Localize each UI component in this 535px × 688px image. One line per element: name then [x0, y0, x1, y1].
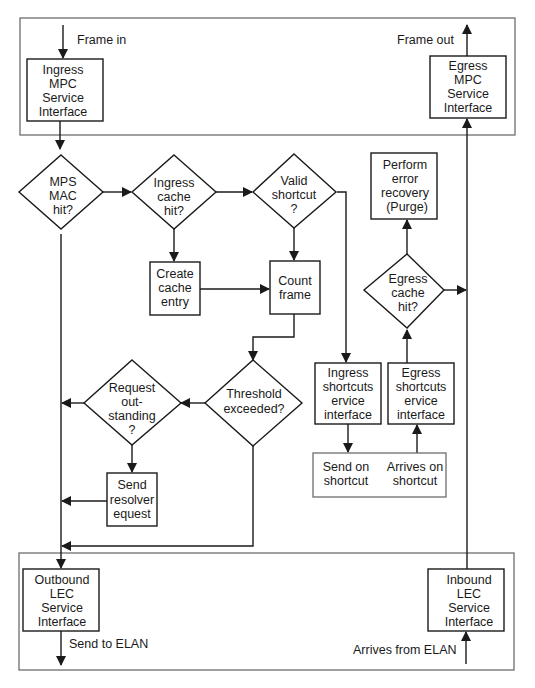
arrives-from-elan-label: Arrives from ELAN: [353, 643, 457, 657]
send-resolver-request-box: Send resolver equest: [107, 473, 157, 526]
ingress-shortcut-service-interface-box: Ingress shortcuts ervice interface: [315, 363, 381, 424]
create-cache-line-3: entry: [161, 295, 190, 309]
send-on-shortcut-line-1: Send on: [323, 460, 370, 474]
egress-mpc-line-1: Egress: [449, 59, 488, 73]
request-outstanding-line-2: out-: [121, 395, 143, 409]
ingress-mpc-line-1: Ingress: [43, 63, 84, 77]
valid-shortcut-line-2: shortcut: [272, 188, 317, 202]
valid-shortcut-line-1: Valid: [281, 174, 308, 188]
egress-mpc-service-interface-box: Egress MPC Service Interface: [430, 56, 506, 118]
ingress-mpc-line-3: Service: [42, 91, 84, 105]
mps-mac-line-1: MPS: [49, 175, 76, 189]
egress-shortcut-line-2: shortcuts: [396, 380, 447, 394]
ingress-shortcut-line-2: shortcuts: [323, 380, 374, 394]
recovery-line-2: error: [392, 172, 418, 186]
send-resolver-line-3: equest: [113, 507, 151, 521]
ingress-shortcut-line-4: interface: [324, 408, 372, 422]
send-on-shortcut-line-2: shortcut: [324, 474, 369, 488]
create-cache-line-2: cache: [158, 281, 191, 295]
frame-out-label: Frame out: [397, 33, 454, 47]
send-to-elan-label: Send to ELAN: [69, 637, 148, 651]
inbound-lec-line-1: Inbound: [446, 573, 491, 587]
request-outstanding-decision: Request out- standing ?: [84, 360, 181, 445]
ingress-cache-line-1: Ingress: [154, 176, 195, 190]
perform-error-recovery-box: Perform error recovery (Purge): [371, 153, 437, 219]
egress-shortcut-line-4: interface: [397, 408, 445, 422]
ingress-mpc-line-2: MPC: [49, 77, 77, 91]
request-outstanding-line-1: Request: [109, 381, 156, 395]
recovery-line-1: Perform: [383, 158, 427, 172]
outbound-lec-line-2: LEC: [50, 587, 74, 601]
inbound-lec-line-3: Service: [448, 601, 490, 615]
inbound-lec-service-interface-box: Inbound LEC Service Interface: [428, 569, 504, 631]
recovery-line-4: (Purge): [386, 200, 428, 214]
egress-shortcut-service-interface-box: Egress shortcuts ervice interface: [388, 363, 454, 424]
flowchart-canvas: Ingress MPC Service Interface Egress MPC…: [0, 0, 535, 688]
arrives-on-shortcut-line-1: Arrives on: [387, 460, 443, 474]
threshold-line-2: exceeded?: [223, 402, 284, 416]
count-frame-box: Count frame: [270, 261, 320, 314]
ingress-mpc-line-4: Interface: [39, 105, 88, 119]
count-frame-line-2: frame: [279, 288, 311, 302]
egress-mpc-line-2: MPC: [454, 73, 482, 87]
threshold-line-1: Threshold: [226, 387, 282, 401]
ingress-cache-line-2: cache: [157, 190, 190, 204]
mps-mac-hit-decision: MPS MAC hit?: [19, 155, 103, 229]
ingress-cache-hit-decision: Ingress cache hit?: [132, 155, 216, 229]
valid-to-ingress-shortcut-arrow: [337, 192, 346, 362]
send-resolver-line-2: resolver: [110, 493, 154, 507]
count-to-threshold-arrow: [253, 314, 294, 360]
threshold-exceeded-decision: Threshold exceeded?: [205, 360, 302, 446]
egress-mpc-line-3: Service: [447, 87, 489, 101]
egress-shortcut-line-3: ervice: [404, 394, 437, 408]
mps-mac-line-2: MAC: [49, 189, 77, 203]
create-cache-line-1: Create: [156, 267, 194, 281]
outbound-lec-service-interface-box: Outbound LEC Service Interface: [23, 569, 99, 631]
ingress-cache-line-3: hit?: [164, 204, 184, 218]
egress-cache-line-3: hit?: [398, 300, 418, 314]
valid-shortcut-decision: Valid shortcut ?: [253, 154, 336, 228]
frame-in-label: Frame in: [77, 33, 126, 47]
inbound-lec-line-4: Interface: [445, 615, 494, 629]
outbound-lec-line-4: Interface: [38, 615, 87, 629]
create-cache-entry-box: Create cache entry: [150, 262, 200, 315]
egress-cache-line-2: cache: [391, 286, 424, 300]
ingress-mpc-service-interface-box: Ingress MPC Service Interface: [27, 59, 103, 121]
egress-shortcut-line-1: Egress: [402, 366, 441, 380]
valid-shortcut-line-3: ?: [291, 202, 298, 216]
recovery-line-3: recovery: [381, 186, 430, 200]
request-outstanding-line-4: ?: [129, 423, 136, 437]
request-outstanding-line-3: standing: [108, 409, 155, 423]
ingress-shortcut-line-3: ervice: [331, 394, 364, 408]
send-resolver-line-1: Send: [117, 478, 146, 492]
ingress-shortcut-line-1: Ingress: [328, 366, 369, 380]
egress-mpc-line-4: Interface: [444, 101, 493, 115]
outbound-lec-line-1: Outbound: [35, 573, 90, 587]
shortcut-terminal-box: Send on shortcut Arrives on shortcut: [313, 453, 446, 497]
egress-cache-line-1: Egress: [389, 272, 428, 286]
arrives-on-shortcut-line-2: shortcut: [393, 474, 438, 488]
outbound-lec-line-3: Service: [41, 601, 83, 615]
inbound-lec-line-2: LEC: [457, 587, 481, 601]
mps-mac-line-3: hit?: [53, 203, 73, 217]
egress-cache-hit-decision: Egress cache hit?: [364, 254, 444, 328]
count-frame-line-1: Count: [278, 274, 312, 288]
